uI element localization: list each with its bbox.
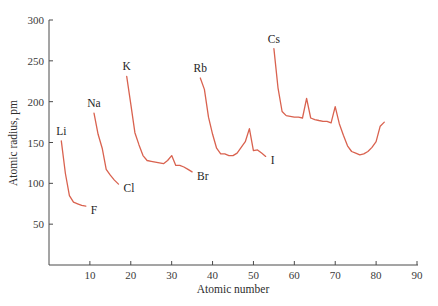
x-tick-label: 80 bbox=[371, 269, 383, 281]
y-tick-label: 250 bbox=[28, 55, 45, 67]
series-line-period-3 bbox=[94, 113, 119, 184]
element-label-na: Na bbox=[87, 97, 100, 109]
series-line-period-5 bbox=[200, 78, 265, 156]
y-tick-label: 100 bbox=[28, 177, 45, 189]
y-axis-title: Atomic radius, pm bbox=[7, 100, 20, 186]
y-tick-label: 300 bbox=[28, 14, 45, 26]
series-line-period-6 bbox=[274, 49, 384, 155]
element-label-cs: Cs bbox=[268, 33, 281, 45]
element-label-i: I bbox=[271, 154, 275, 166]
element-label-cl: Cl bbox=[124, 182, 135, 194]
y-tick-label: 200 bbox=[28, 96, 45, 108]
x-tick-label: 70 bbox=[330, 269, 342, 281]
element-label-f: F bbox=[91, 204, 97, 216]
x-tick-label: 20 bbox=[125, 269, 137, 281]
series-line-period-2 bbox=[61, 141, 86, 206]
atomic-radius-chart: 50100150200250300 102030405060708090 LiF… bbox=[0, 0, 438, 306]
x-tick-label: 90 bbox=[412, 269, 424, 281]
y-tick-label: 150 bbox=[28, 137, 45, 149]
series-lines bbox=[61, 49, 384, 207]
x-axis-title: Atomic number bbox=[197, 283, 270, 295]
element-labels: LiFNaClKBrRbICs bbox=[56, 33, 280, 217]
series-line-period-4 bbox=[127, 76, 192, 172]
element-label-li: Li bbox=[56, 125, 66, 137]
y-tick-label: 50 bbox=[33, 218, 45, 230]
x-tick-label: 30 bbox=[166, 269, 178, 281]
element-label-k: K bbox=[123, 60, 132, 72]
x-tick-label: 10 bbox=[84, 269, 96, 281]
x-tick-label: 50 bbox=[248, 269, 260, 281]
element-label-rb: Rb bbox=[194, 62, 208, 74]
x-tick-label: 40 bbox=[207, 269, 219, 281]
x-tick-label: 60 bbox=[289, 269, 301, 281]
element-label-br: Br bbox=[197, 170, 209, 182]
x-axis-ticks: 102030405060708090 bbox=[84, 261, 423, 281]
plot-frame bbox=[49, 20, 418, 265]
